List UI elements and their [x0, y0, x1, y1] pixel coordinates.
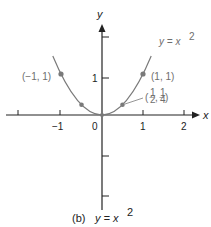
x-tick-label-0: 0: [92, 121, 98, 132]
point-label-half-quarter: ( 1 2 , 1 4 ): [145, 87, 168, 105]
x-axis-label: x: [202, 109, 209, 121]
point-label-neg1-1: (−1, 1): [22, 71, 51, 82]
point-label-1-1: (1, 1): [151, 71, 174, 82]
svg-text:2: 2: [189, 31, 195, 42]
point-half-quarter: [120, 102, 125, 107]
svg-text:y = x: y = x: [158, 36, 181, 47]
svg-text:(b): (b): [72, 212, 85, 224]
point-neghalf-quarter: [79, 102, 84, 107]
x-axis-arrow-icon: [192, 112, 200, 119]
svg-text:2: 2: [127, 206, 133, 218]
point-origin: [100, 113, 104, 117]
point-1-1: [140, 71, 145, 76]
curve-label: y = x 2: [158, 31, 195, 47]
svg-text:): ): [165, 92, 168, 103]
parabola-graph: x y −1 0 1 2 1 (−1, 1) (1, 1) ( 1 2: [0, 0, 211, 227]
x-tick-label-2: 2: [181, 121, 187, 132]
svg-text:(: (: [145, 92, 149, 103]
y-tick-label-1: 1: [92, 73, 98, 84]
x-tick-label-1: 1: [140, 121, 146, 132]
point-neg1-1: [58, 71, 63, 76]
y-axis-arrow-icon: [99, 24, 106, 32]
y-axis-label: y: [96, 8, 104, 20]
x-tick-label-neg1: −1: [52, 121, 64, 132]
svg-text:y = x: y = x: [94, 212, 119, 224]
svg-text:,: ,: [155, 92, 158, 103]
